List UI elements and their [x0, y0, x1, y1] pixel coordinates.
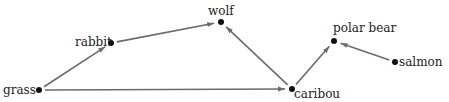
food-web-canvas: grassrabbitwolfcariboupolar bearsalmon — [0, 0, 449, 102]
food-web-diagram: grassrabbitwolfcariboupolar bearsalmon — [0, 0, 449, 102]
node-label: caribou — [294, 87, 340, 101]
node-dot-icon — [392, 59, 398, 65]
node-salmon: salmon — [392, 55, 443, 69]
edge-grass-to-caribou — [45, 89, 285, 90]
node-label: polar bear — [333, 21, 396, 35]
node-grass: grass — [3, 83, 42, 97]
node-polar_bear: polar bear — [331, 21, 396, 44]
node-label: grass — [3, 83, 36, 97]
edge-grass-to-rabbit — [44, 47, 105, 87]
node-label: wolf — [208, 4, 235, 18]
node-label: rabbit — [75, 35, 112, 49]
edge-caribou-to-polar_bear — [296, 46, 329, 84]
nodes-layer: grassrabbitwolfcariboupolar bearsalmon — [3, 4, 443, 101]
node-rabbit: rabbit — [75, 35, 114, 49]
node-caribou: caribou — [289, 86, 340, 101]
edge-salmon-to-polar_bear — [341, 43, 390, 60]
node-dot-icon — [218, 19, 224, 25]
edge-caribou-to-wolf — [226, 27, 288, 85]
node-label: salmon — [399, 55, 443, 69]
node-dot-icon — [331, 38, 337, 44]
node-dot-icon — [36, 87, 42, 93]
edge-rabbit-to-wolf — [117, 23, 214, 42]
node-wolf: wolf — [208, 4, 235, 25]
